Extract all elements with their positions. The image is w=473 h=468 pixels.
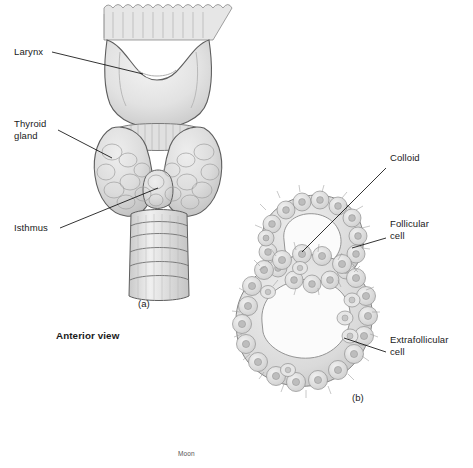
thyroid-lobe-right [163,127,221,216]
trachea [129,210,189,301]
label-colloid: Colloid [390,152,420,164]
larynx-cartilage [105,40,212,128]
figure-thyroid-gland: Larynx Thyroid gland Isthmus Colloid Fol… [0,0,473,468]
label-larynx: Larynx [14,46,43,58]
label-extrafollicular-cell: Extrafollicular cell [390,334,449,357]
thyroid-lobe-left [94,127,152,216]
panel-caption-b: (b) [352,392,364,403]
panel-subcaption-anterior-view: Anterior view [56,330,119,342]
panel-a-artwork [52,5,232,301]
label-thyroid-gland: Thyroid gland [14,118,46,141]
superior-tissue-fringe [104,5,232,41]
label-follicular-cell: Follicular cell [390,218,429,241]
panel-caption-a: (a) [138,298,150,309]
thyroid-isthmus [143,170,173,209]
panel-b-artwork [232,168,386,398]
label-isthmus: Isthmus [14,222,48,234]
artist-credit: Moon [178,448,195,460]
